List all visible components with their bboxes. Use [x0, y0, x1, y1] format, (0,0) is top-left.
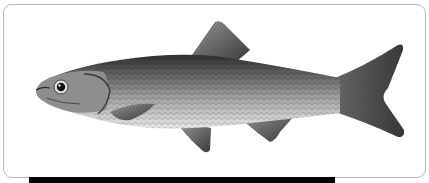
fish-eye — [54, 80, 68, 94]
caudal-fin — [335, 45, 404, 138]
fish-head — [36, 71, 110, 114]
pelvic-fin — [180, 126, 211, 153]
bottom-bar — [29, 177, 335, 183]
fish-illustration — [0, 0, 429, 183]
